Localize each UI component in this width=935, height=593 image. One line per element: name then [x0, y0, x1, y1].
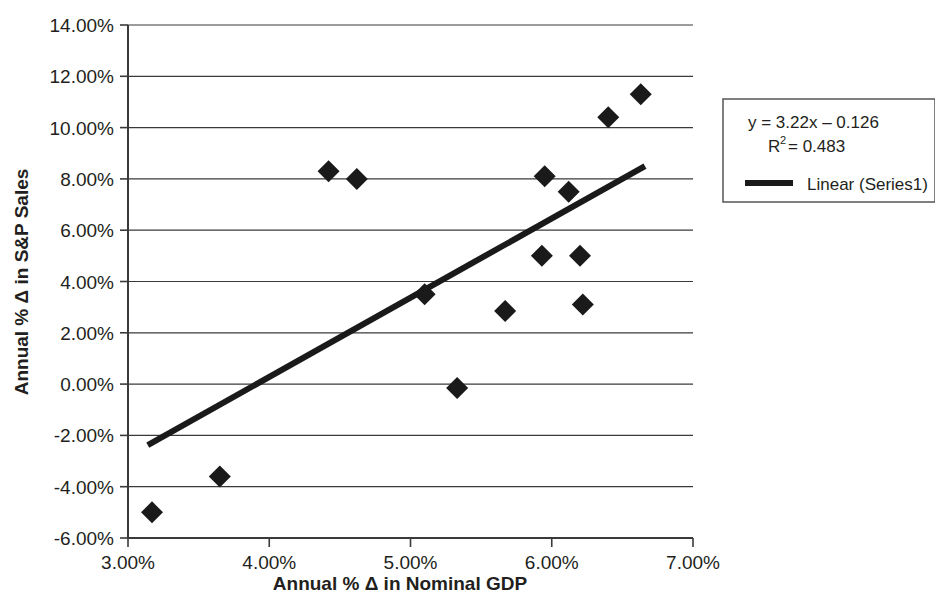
x-axis-tick-label: 5.00%: [384, 552, 438, 573]
chart-canvas: 14.00%12.00%10.00%8.00%6.00%4.00%2.00%0.…: [0, 0, 935, 593]
legend-equation: y = 3.22x – 0.126: [748, 113, 879, 132]
y-axis-tick-label: -4.00%: [54, 477, 114, 498]
legend-series-label: Linear (Series1): [807, 175, 928, 194]
x-axis-tick-label: 7.00%: [666, 552, 720, 573]
y-axis-tick-labels: 14.00%12.00%10.00%8.00%6.00%4.00%2.00%0.…: [50, 15, 115, 549]
y-axis-tick-label: 10.00%: [50, 118, 115, 139]
x-axis-tick-label: 6.00%: [525, 552, 579, 573]
y-axis-tick-label: 2.00%: [60, 323, 114, 344]
y-axis-tick-label: 12.00%: [50, 66, 115, 87]
y-axis-title: Annual % Δ in S&P Sales: [11, 169, 32, 396]
y-axis-tick-label: 4.00%: [60, 272, 114, 293]
y-axis-tick-label: -2.00%: [54, 425, 114, 446]
x-axis-ticks-group: [128, 538, 693, 547]
legend-r-squared-value: = 0.483: [788, 137, 845, 156]
x-axis-tick-label: 4.00%: [242, 552, 296, 573]
x-axis-tick-label: 3.00%: [101, 552, 155, 573]
y-axis-ticks-group: [120, 25, 128, 538]
x-axis-title: Annual % Δ in Nominal GDP: [273, 573, 528, 593]
y-axis-tick-label: 0.00%: [60, 374, 114, 395]
x-axis-tick-labels: 3.00%4.00%5.00%6.00%7.00%: [101, 552, 720, 573]
y-axis-tick-label: -6.00%: [54, 528, 114, 549]
y-axis-tick-label: 8.00%: [60, 169, 114, 190]
scatter-chart: 14.00%12.00%10.00%8.00%6.00%4.00%2.00%0.…: [0, 0, 935, 593]
legend-r-squared-base: R: [768, 137, 780, 156]
y-axis-tick-label: 14.00%: [50, 15, 115, 36]
legend-r-squared-exponent: 2: [780, 134, 786, 146]
y-axis-tick-label: 6.00%: [60, 220, 114, 241]
